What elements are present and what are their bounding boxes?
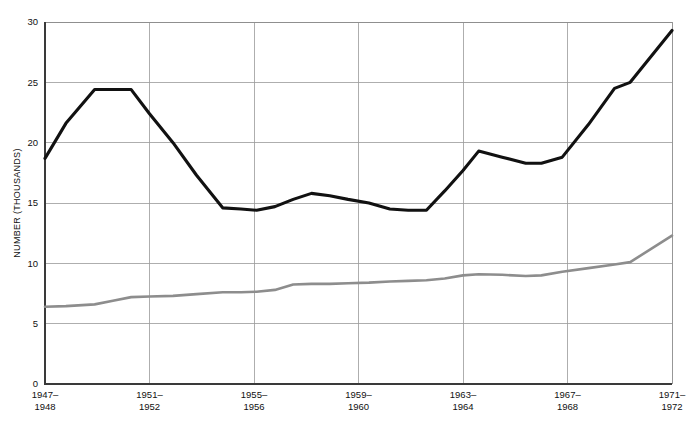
x-tick-label-line1: 1963– bbox=[450, 389, 477, 400]
y-tick-label: 10 bbox=[27, 258, 38, 269]
x-axis-tick-labels: 1947–19481951–19521955–19561959–19601963… bbox=[32, 389, 686, 412]
x-tick-label-line2: 1972 bbox=[661, 401, 682, 412]
y-tick-label: 15 bbox=[27, 197, 38, 208]
y-tick-label: 30 bbox=[27, 16, 38, 27]
y-axis-title: NUMBER (THOUSANDS) bbox=[12, 148, 22, 257]
y-tick-label: 5 bbox=[33, 318, 38, 329]
chart-container: 051015202530 1947–19481951–19521955–1956… bbox=[0, 0, 693, 428]
x-tick-label-line2: 1968 bbox=[557, 401, 578, 412]
y-tick-label: 25 bbox=[27, 77, 38, 88]
y-tick-label: 0 bbox=[33, 378, 38, 389]
gridlines-group bbox=[45, 22, 672, 384]
x-tick-label-line1: 1967– bbox=[554, 389, 581, 400]
x-tick-label-line2: 1964 bbox=[452, 401, 473, 412]
x-tick-label-line2: 1952 bbox=[139, 401, 160, 412]
x-tick-label-line1: 1971– bbox=[659, 389, 686, 400]
y-axis-tick-labels: 051015202530 bbox=[27, 16, 38, 389]
x-tick-label-line1: 1955– bbox=[241, 389, 268, 400]
x-tick-label-line1: 1951– bbox=[136, 389, 163, 400]
x-tick-label-line1: 1959– bbox=[345, 389, 372, 400]
x-tick-label-line1: 1947– bbox=[32, 389, 59, 400]
y-axis-title-group: NUMBER (THOUSANDS) bbox=[12, 148, 22, 257]
y-tick-label: 20 bbox=[27, 137, 38, 148]
x-tick-label-line2: 1960 bbox=[348, 401, 369, 412]
x-tick-label-line2: 1956 bbox=[243, 401, 264, 412]
line-chart: 051015202530 1947–19481951–19521955–1956… bbox=[0, 0, 693, 428]
x-tick-label-line2: 1948 bbox=[34, 401, 55, 412]
